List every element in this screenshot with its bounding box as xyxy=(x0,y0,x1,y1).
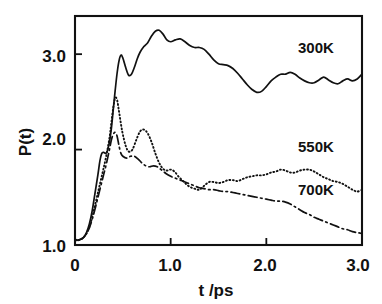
line-chart: P(t) 3.0 2.0 1.0 0 1.0 2.0 3.0 t /ps 300… xyxy=(0,0,382,304)
y-tick-label-2: 2.0 xyxy=(42,130,66,149)
series-label-550k: 550K xyxy=(298,138,334,155)
figure-container: P(t) 3.0 2.0 1.0 0 1.0 2.0 3.0 t /ps 300… xyxy=(0,0,382,304)
curve-300k xyxy=(75,30,362,240)
x-tick-label-1: 1.0 xyxy=(158,256,182,275)
series-label-300k: 300K xyxy=(298,39,334,56)
y-axis-title: P(t) xyxy=(16,128,35,156)
x-tick-label-3: 3.0 xyxy=(346,256,370,275)
y-tick-label-1: 1.0 xyxy=(42,237,66,256)
x-tick-label-2: 2.0 xyxy=(253,256,277,275)
x-tick-label-0: 0 xyxy=(70,256,79,275)
x-axis-title: t /ps xyxy=(199,281,234,300)
data-curves xyxy=(75,30,362,240)
series-label-700k: 700K xyxy=(298,181,334,198)
y-tick-label-3: 3.0 xyxy=(42,47,66,66)
